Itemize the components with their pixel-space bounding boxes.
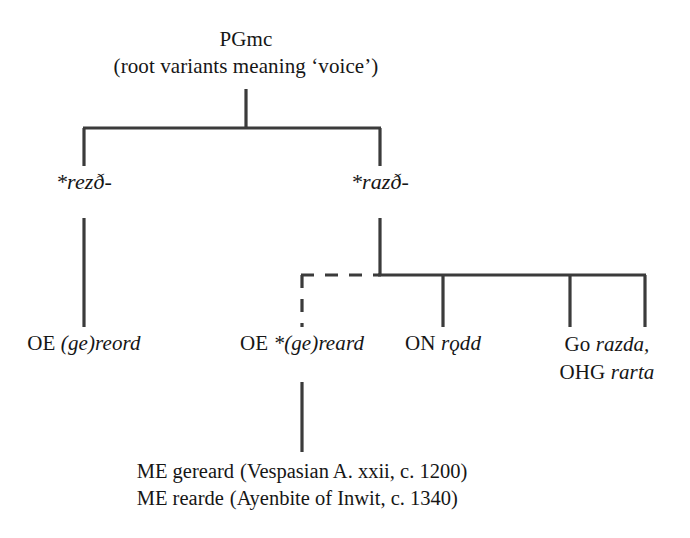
leaf-oe-gereord-form: (ge)reord: [61, 331, 141, 355]
me-rearde-language: ME: [137, 487, 168, 509]
node-proto-razd-label: *razð-: [351, 169, 409, 194]
leaf-ohg-form: rarta: [611, 360, 655, 384]
leaf-go-language: Go: [565, 332, 591, 356]
leaf-ohg-language: OHG: [560, 360, 606, 384]
me-gereard-source: (Vespasian A. xxii,: [240, 460, 395, 482]
node-proto-razd: *razð-: [351, 168, 409, 197]
leaf-oe-gereard-form: *(ge)reard: [274, 331, 364, 355]
me-gereard-year: 1200): [419, 460, 467, 482]
node-proto-rezd: *rezð-: [56, 168, 112, 197]
leaf-ohg-line: OHG rarta: [560, 358, 655, 386]
me-descendants-block: ME gereard(Vespasian A. xxii, c. 1200) M…: [137, 458, 468, 513]
me-gereard-circa: c.: [400, 460, 414, 482]
leaf-go-line: Go razda,: [560, 330, 655, 358]
me-rearde-source: (Ayenbite of Inwit,: [230, 487, 386, 509]
node-root: PGmc (root variants meaning ‘voice’): [114, 26, 379, 81]
me-gereard-form: gereard: [173, 460, 234, 482]
root-gloss: (root variants meaning ‘voice’): [114, 53, 379, 80]
leaf-oe-gereard: OE *(ge)reard: [240, 330, 364, 357]
leaf-oe-gereord: OE (ge)reord: [27, 330, 140, 357]
node-proto-rezd-label: *rezð-: [56, 169, 112, 194]
root-label: PGmc: [114, 26, 379, 53]
leaf-go-form: razda,: [596, 332, 650, 356]
etymological-tree-diagram: PGmc (root variants meaning ‘voice’) *re…: [0, 0, 690, 538]
me-rearde-form: rearde: [173, 487, 224, 509]
leaf-on-rodd-language: ON: [405, 331, 436, 355]
me-descendant-row: ME rearde(Ayenbite of Inwit, c. 1340): [137, 485, 468, 512]
me-rearde-circa: c.: [391, 487, 405, 509]
me-rearde-year: 1340): [410, 487, 458, 509]
leaf-oe-gereord-language: OE: [27, 331, 55, 355]
me-gereard-language: ME: [137, 460, 168, 482]
leaf-oe-gereard-language: OE: [240, 331, 268, 355]
leaf-on-rodd-form: rǫdd: [441, 331, 481, 355]
me-descendant-row: ME gereard(Vespasian A. xxii, c. 1200): [137, 458, 468, 485]
leaf-go-ohg: Go razda, OHG rarta: [560, 330, 655, 386]
leaf-on-rodd: ON rǫdd: [405, 330, 481, 357]
